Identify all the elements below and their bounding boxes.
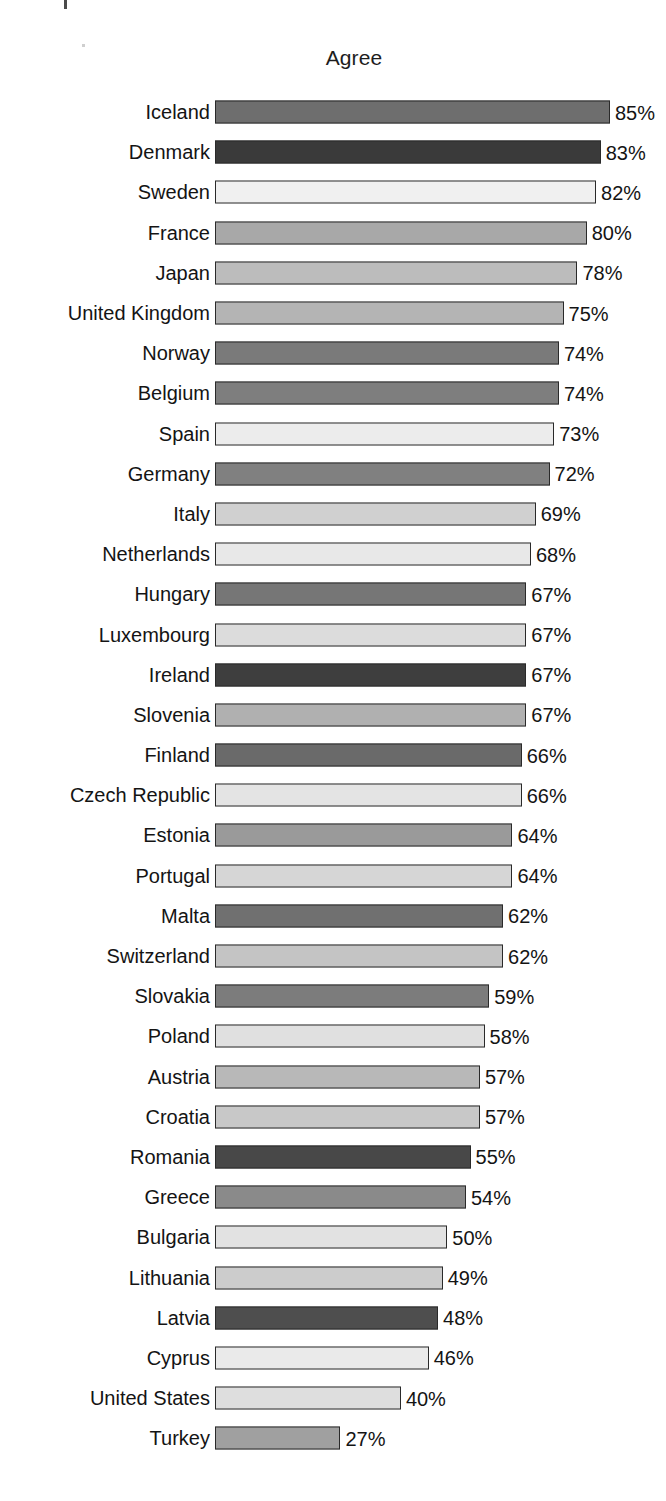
category-label: Lithuania bbox=[129, 1268, 210, 1288]
bar-value-label: 57% bbox=[485, 1107, 525, 1127]
bar-row: Portugal64% bbox=[0, 856, 666, 896]
bar-track: 59% bbox=[215, 985, 489, 1008]
bar-value-label: 74% bbox=[564, 343, 604, 363]
bar-value-label: 74% bbox=[564, 383, 604, 403]
bar-row: United States40% bbox=[0, 1378, 666, 1418]
category-label: Turkey bbox=[150, 1428, 210, 1448]
bar-value-label: 67% bbox=[531, 625, 571, 645]
bar-value-label: 62% bbox=[508, 906, 548, 926]
bar-track: 64% bbox=[215, 864, 512, 887]
bar-value-label: 72% bbox=[555, 464, 595, 484]
bar-value-label: 75% bbox=[569, 303, 609, 323]
bar-value-label: 50% bbox=[452, 1227, 492, 1247]
bar: 40% bbox=[215, 1387, 401, 1410]
bar-value-label: 83% bbox=[606, 142, 646, 162]
bar-value-label: 27% bbox=[345, 1428, 385, 1448]
category-label: Germany bbox=[128, 464, 210, 484]
bar-track: 54% bbox=[215, 1186, 466, 1209]
bar-row: Turkey27% bbox=[0, 1418, 666, 1458]
bar-value-label: 46% bbox=[434, 1348, 474, 1368]
bar-track: 57% bbox=[215, 1105, 480, 1128]
bar-track: 67% bbox=[215, 583, 526, 606]
bar-row: Czech Republic66% bbox=[0, 775, 666, 815]
bar: 72% bbox=[215, 462, 550, 485]
bar-row: Slovakia59% bbox=[0, 976, 666, 1016]
bar-value-label: 64% bbox=[517, 825, 557, 845]
bar: 78% bbox=[215, 261, 577, 284]
bar-value-label: 49% bbox=[448, 1268, 488, 1288]
bar-row: Sweden82% bbox=[0, 172, 666, 212]
bar: 74% bbox=[215, 382, 559, 405]
bar-track: 46% bbox=[215, 1346, 429, 1369]
chart-plot-area: Iceland85%Denmark83%Sweden82%France80%Ja… bbox=[0, 92, 666, 1458]
bar-track: 75% bbox=[215, 302, 564, 325]
bar-value-label: 69% bbox=[541, 504, 581, 524]
bar: 82% bbox=[215, 181, 596, 204]
category-label: Netherlands bbox=[102, 544, 210, 564]
bar-value-label: 73% bbox=[559, 424, 599, 444]
bar-track: 49% bbox=[215, 1266, 443, 1289]
bar-row: Austria57% bbox=[0, 1057, 666, 1097]
bar-row: Malta62% bbox=[0, 896, 666, 936]
bar: 75% bbox=[215, 302, 564, 325]
bar: 62% bbox=[215, 945, 503, 968]
bar-value-label: 78% bbox=[582, 263, 622, 283]
bar-track: 40% bbox=[215, 1387, 401, 1410]
bar-value-label: 40% bbox=[406, 1388, 446, 1408]
bar: 67% bbox=[215, 583, 526, 606]
bar: 66% bbox=[215, 744, 522, 767]
bar-value-label: 62% bbox=[508, 946, 548, 966]
category-label: Switzerland bbox=[107, 946, 210, 966]
bar-row: Cyprus46% bbox=[0, 1338, 666, 1378]
category-label: Finland bbox=[144, 745, 210, 765]
bar: 59% bbox=[215, 985, 489, 1008]
category-label: United States bbox=[90, 1388, 210, 1408]
bar: 54% bbox=[215, 1186, 466, 1209]
bar-row: Norway74% bbox=[0, 333, 666, 373]
category-label: Hungary bbox=[134, 584, 210, 604]
bar-row: Belgium74% bbox=[0, 373, 666, 413]
bar-track: 67% bbox=[215, 703, 526, 726]
bar: 58% bbox=[215, 1025, 485, 1048]
category-label: Czech Republic bbox=[70, 785, 210, 805]
bar: 57% bbox=[215, 1065, 480, 1088]
category-label: Austria bbox=[148, 1067, 210, 1087]
bar-row: Latvia48% bbox=[0, 1298, 666, 1338]
bar: 69% bbox=[215, 502, 536, 525]
bar: 73% bbox=[215, 422, 554, 445]
category-label: Ireland bbox=[149, 665, 210, 685]
category-label: Romania bbox=[130, 1147, 210, 1167]
bar-row: Spain73% bbox=[0, 414, 666, 454]
bar-value-label: 82% bbox=[601, 182, 641, 202]
bar-track: 82% bbox=[215, 181, 596, 204]
bar-row: Slovenia67% bbox=[0, 695, 666, 735]
bar-row: United Kingdom75% bbox=[0, 293, 666, 333]
category-label: Iceland bbox=[146, 102, 211, 122]
bar-value-label: 55% bbox=[476, 1147, 516, 1167]
category-label: Poland bbox=[148, 1026, 210, 1046]
category-label: Sweden bbox=[138, 182, 210, 202]
bar-track: 66% bbox=[215, 744, 522, 767]
bar-track: 55% bbox=[215, 1145, 471, 1168]
bar: 67% bbox=[215, 703, 526, 726]
bar-track: 68% bbox=[215, 543, 531, 566]
bar-row: Lithuania49% bbox=[0, 1257, 666, 1297]
bar-row: Iceland85% bbox=[0, 92, 666, 132]
bar-row: Luxembourg67% bbox=[0, 614, 666, 654]
bar-track: 62% bbox=[215, 904, 503, 927]
bar-row: Croatia57% bbox=[0, 1097, 666, 1137]
category-label: United Kingdom bbox=[68, 303, 210, 323]
bar: 64% bbox=[215, 824, 512, 847]
bar-track: 80% bbox=[215, 221, 587, 244]
chart-title: Agree bbox=[0, 46, 666, 70]
bar: 50% bbox=[215, 1226, 447, 1249]
bar-track: 66% bbox=[215, 784, 522, 807]
bar: 46% bbox=[215, 1346, 429, 1369]
bar-track: 83% bbox=[215, 141, 601, 164]
bar: 80% bbox=[215, 221, 587, 244]
bar-row: Estonia64% bbox=[0, 815, 666, 855]
bar-track: 73% bbox=[215, 422, 554, 445]
bar: 74% bbox=[215, 342, 559, 365]
bar-track: 69% bbox=[215, 502, 536, 525]
bar-value-label: 48% bbox=[443, 1308, 483, 1328]
